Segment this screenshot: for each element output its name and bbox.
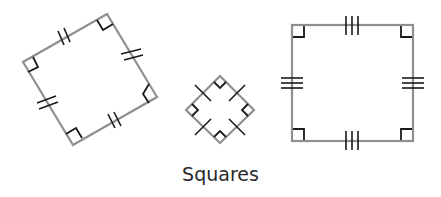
right-angle-marks xyxy=(293,26,412,140)
tilted-square xyxy=(23,14,157,145)
figure-caption: Squares xyxy=(0,163,441,185)
tick-marks-single xyxy=(195,85,245,135)
right-angle-marks xyxy=(28,20,149,138)
upright-square xyxy=(281,16,424,150)
small-diamond-square xyxy=(186,76,254,143)
